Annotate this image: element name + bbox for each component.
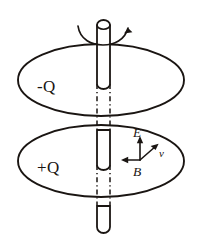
B-vector-label: B xyxy=(133,164,141,179)
upper-disc-charge-label: -Q xyxy=(37,77,56,96)
central-rod xyxy=(97,20,110,233)
diagram-canvas: -Q +Q E v B xyxy=(0,0,203,242)
lower-disc-charge-label: +Q xyxy=(37,158,60,177)
rod-segment-bottom xyxy=(97,206,110,233)
vector-triad: E v B xyxy=(121,125,164,179)
rod-segment-top xyxy=(97,20,110,89)
v-vector-label: v xyxy=(159,147,164,159)
E-vector-label: E xyxy=(132,125,142,140)
rotation-arrowhead-icon xyxy=(124,28,132,33)
rod-segment-middle xyxy=(97,130,110,170)
physics-diagram-figure: -Q +Q E v B xyxy=(0,0,203,242)
B-arrowhead-icon xyxy=(121,157,128,163)
